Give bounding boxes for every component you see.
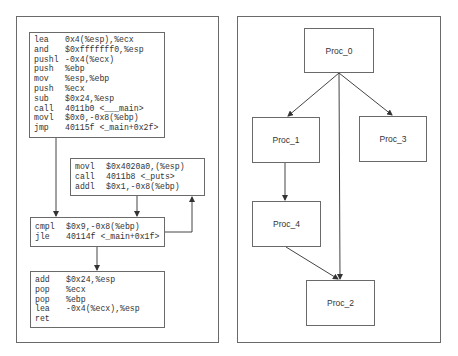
edge-proc0-proc3 [339,73,392,115]
edge-cond-to-body-loop [165,197,192,232]
edge-proc0-proc1 [288,73,339,116]
edge-proc4-proc2 [286,247,338,279]
edge-proc0-proc2 [339,73,340,279]
edges-layer [0,0,458,356]
